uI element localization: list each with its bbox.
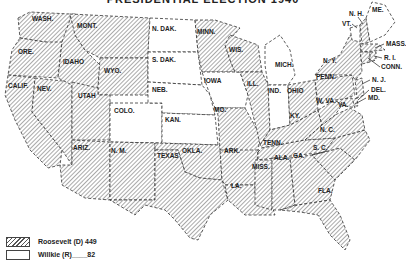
label-vt: VT.: [342, 20, 352, 27]
us-election-map: WASH. ORE. CALIF. NEV. IDAHO MONT. WYO. …: [0, 0, 406, 263]
label-idaho: IDAHO: [63, 58, 84, 65]
state-nj: [355, 78, 364, 98]
label-ri: R. I.: [384, 54, 396, 61]
label-ky: KY.: [290, 112, 300, 119]
label-wyo: WYO.: [104, 67, 122, 74]
state-fla: [280, 200, 350, 250]
label-mont: MONT.: [77, 22, 97, 29]
legend: Roosevelt (D) 449 Willkie (R)____82: [6, 236, 97, 262]
label-minn: MINN.: [197, 28, 216, 35]
label-colo: COLO.: [114, 107, 135, 114]
label-texas: TEXAS: [157, 152, 179, 159]
label-ore: ORE.: [18, 48, 34, 55]
label-mich: MICH.: [275, 61, 294, 68]
label-nc: N. C.: [320, 126, 335, 133]
label-ariz: ARIZ.: [73, 144, 90, 151]
label-ind: IND.: [268, 87, 281, 94]
label-penn: PENN.: [316, 73, 336, 80]
label-sdak: S. DAK.: [152, 56, 176, 63]
white-swatch: [6, 250, 30, 260]
label-ala: ALA.: [274, 154, 289, 161]
label-va: VA.: [338, 101, 349, 108]
label-neb: NEB.: [152, 86, 168, 93]
label-wva: W. VA.: [316, 97, 336, 104]
label-sc: S. C.: [313, 144, 328, 151]
label-del: DEL.: [371, 86, 386, 93]
label-ndak: N. DAK.: [152, 25, 176, 32]
label-mass: MASS.: [386, 40, 406, 47]
label-md: MD.: [368, 94, 380, 101]
label-nm: N. M.: [111, 147, 127, 154]
label-miss: MISS.: [252, 163, 270, 170]
label-iowa: IOWA: [204, 77, 222, 84]
label-ohio: OHIO: [287, 87, 304, 94]
label-la: LA.: [231, 182, 242, 189]
label-kan: KAN.: [165, 116, 181, 123]
state-ore: [8, 38, 62, 78]
label-ark: ARK.: [224, 147, 240, 154]
legend-item-roosevelt: Roosevelt (D) 449: [6, 236, 97, 247]
label-me: ME.: [372, 6, 384, 13]
label-conn: CONN.: [381, 63, 402, 70]
label-nh: N. H.: [349, 10, 364, 17]
legend-label-willkie: Willkie (R)____82: [38, 251, 95, 258]
label-mo: MO.: [214, 106, 226, 113]
legend-label-roosevelt: Roosevelt (D) 449: [38, 238, 97, 245]
label-utah: UTAH: [78, 92, 96, 99]
label-wis: WIS.: [229, 46, 243, 53]
label-ny: N. Y.: [323, 57, 337, 64]
state-mich: [265, 35, 295, 85]
label-nev: NEV.: [37, 85, 52, 92]
label-okla: OKLA.: [182, 147, 202, 154]
label-fla: FLA.: [318, 187, 333, 194]
label-ill: ILL.: [247, 80, 259, 87]
label-wash: WASH.: [32, 15, 54, 22]
label-tenn: TENN.: [263, 139, 283, 146]
legend-item-willkie: Willkie (R)____82: [6, 249, 97, 260]
state-wyo: [98, 58, 148, 95]
label-ga: GA.: [293, 152, 305, 159]
label-calif: CALIF.: [8, 82, 28, 89]
state-ndak: [148, 18, 198, 52]
hatched-swatch: [6, 237, 30, 247]
label-nj: N. J.: [372, 76, 386, 83]
